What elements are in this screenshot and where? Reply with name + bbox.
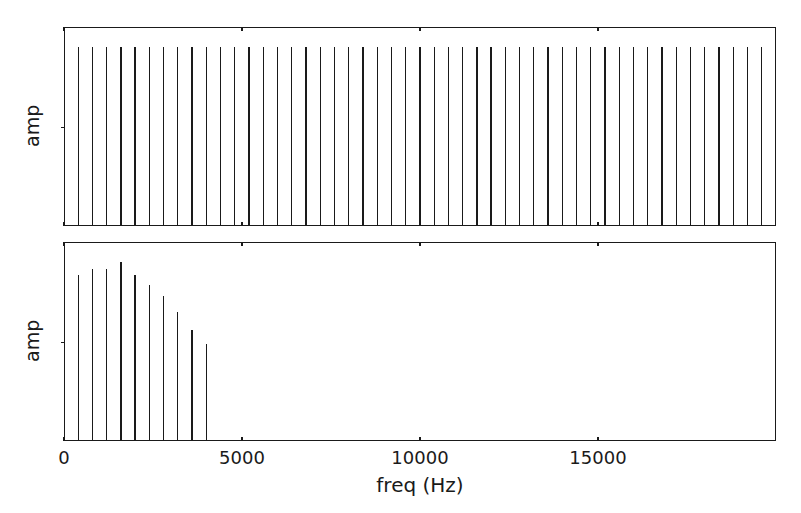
spectrum-stem-aliased xyxy=(305,47,306,225)
plot-area-bandlimited xyxy=(65,243,775,440)
spectrum-stem-aliased xyxy=(234,47,235,225)
spectrum-stem-aliased xyxy=(647,47,648,225)
spectrum-stem-aliased xyxy=(519,47,520,225)
spectrum-stem-aliased xyxy=(291,47,292,225)
spectrum-stem-bandlimited xyxy=(120,262,121,440)
x-tick-label: 0 xyxy=(58,447,69,468)
spectrum-stem-aliased xyxy=(533,47,534,225)
x-tick-lower-bottom xyxy=(419,437,420,441)
spectrum-stem-aliased xyxy=(547,47,548,225)
spectrum-stem-bandlimited xyxy=(106,269,107,440)
spectrum-stem-aliased xyxy=(206,47,207,225)
spectrum-axes-aliased xyxy=(64,27,776,226)
x-tick-lower-top xyxy=(419,242,420,246)
x-tick-lower-top xyxy=(63,242,64,246)
spectrum-stem-aliased xyxy=(704,47,705,225)
spectrum-stem-aliased xyxy=(633,47,634,225)
spectrum-stem-bandlimited xyxy=(149,285,150,440)
spectrum-stem-aliased xyxy=(576,47,577,225)
y-tick-bandlimited xyxy=(61,342,65,343)
spectrum-stem-aliased xyxy=(462,47,463,225)
spectrum-stem-aliased xyxy=(78,47,79,225)
x-tick-upper-top xyxy=(241,27,242,31)
figure-canvas: amp amp 050001000015000 freq (Hz) xyxy=(0,0,801,513)
spectrum-stem-aliased xyxy=(690,47,691,225)
spectrum-stem-aliased xyxy=(505,47,506,225)
spectrum-stem-aliased xyxy=(676,47,677,225)
spectrum-stem-aliased xyxy=(134,47,135,225)
x-tick-lower-bottom xyxy=(597,437,598,441)
x-tick-label: 15000 xyxy=(569,447,626,468)
spectrum-stem-bandlimited xyxy=(163,296,164,440)
spectrum-stem-aliased xyxy=(348,47,349,225)
spectrum-stem-aliased xyxy=(191,47,192,225)
spectrum-stem-aliased xyxy=(248,47,249,225)
plot-area-aliased xyxy=(65,28,775,225)
spectrum-stem-aliased xyxy=(320,47,321,225)
spectrum-stem-aliased xyxy=(377,47,378,225)
spectrum-stem-aliased xyxy=(405,47,406,225)
spectrum-stem-aliased xyxy=(120,47,121,225)
spectrum-stem-aliased xyxy=(163,47,164,225)
spectrum-stem-aliased xyxy=(590,47,591,225)
spectrum-stem-aliased xyxy=(277,47,278,225)
spectrum-stem-aliased xyxy=(619,47,620,225)
spectrum-stem-aliased xyxy=(604,47,605,225)
x-tick-label: 5000 xyxy=(219,447,265,468)
spectrum-stem-aliased xyxy=(419,47,420,225)
spectrum-stem-bandlimited xyxy=(177,312,178,440)
spectrum-stem-aliased xyxy=(434,47,435,225)
x-tick-lower-top xyxy=(241,242,242,246)
spectrum-stem-aliased xyxy=(747,47,748,225)
x-tick-upper-bottom xyxy=(597,222,598,226)
spectrum-stem-aliased xyxy=(92,47,93,225)
x-tick-upper-top xyxy=(419,27,420,31)
spectrum-stem-aliased xyxy=(661,47,662,225)
x-axis-label: freq (Hz) xyxy=(64,473,776,497)
y-tick-aliased xyxy=(61,127,65,128)
x-tick-lower-bottom xyxy=(241,437,242,441)
spectrum-stem-aliased xyxy=(263,47,264,225)
spectrum-stem-bandlimited xyxy=(92,269,93,440)
x-tick-upper-bottom xyxy=(241,222,242,226)
spectrum-stem-bandlimited xyxy=(134,275,135,440)
spectrum-stem-aliased xyxy=(220,47,221,225)
spectrum-stem-bandlimited xyxy=(78,275,79,440)
spectrum-stem-aliased xyxy=(490,47,491,225)
y-axis-label-bandlimited: amp xyxy=(22,322,42,362)
spectrum-stem-aliased xyxy=(362,47,363,225)
spectrum-stem-aliased xyxy=(761,47,762,225)
x-tick-upper-bottom xyxy=(419,222,420,226)
x-tick-upper-top xyxy=(63,27,64,31)
spectrum-stem-aliased xyxy=(476,47,477,225)
x-tick-upper-top xyxy=(597,27,598,31)
spectrum-stem-aliased xyxy=(562,47,563,225)
spectrum-stem-aliased xyxy=(448,47,449,225)
y-axis-label-aliased: amp xyxy=(22,107,42,147)
x-tick-upper-bottom xyxy=(63,222,64,226)
spectrum-stem-aliased xyxy=(149,47,150,225)
spectrum-stem-aliased xyxy=(733,47,734,225)
spectrum-stem-aliased xyxy=(106,47,107,225)
spectrum-stem-aliased xyxy=(718,47,719,225)
x-tick-lower-bottom xyxy=(63,437,64,441)
x-tick-lower-top xyxy=(597,242,598,246)
x-tick-label: 10000 xyxy=(391,447,448,468)
spectrum-stem-bandlimited xyxy=(191,330,192,440)
spectrum-axes-bandlimited xyxy=(64,242,776,441)
spectrum-stem-aliased xyxy=(391,47,392,225)
spectrum-stem-bandlimited xyxy=(206,344,207,440)
spectrum-stem-aliased xyxy=(334,47,335,225)
spectrum-stem-aliased xyxy=(177,47,178,225)
